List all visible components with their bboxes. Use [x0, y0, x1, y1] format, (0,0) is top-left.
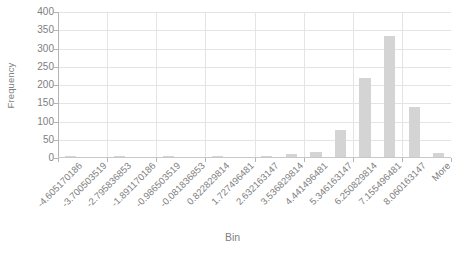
bar: [384, 36, 395, 157]
x-axis-title: Bin: [0, 231, 465, 243]
x-axis-tick-labels: -4.605170186-3.700503519-2.795836853-1.8…: [58, 160, 451, 230]
y-tick-label: 50: [18, 135, 54, 145]
plot-area: [58, 12, 451, 158]
y-axis-title-text: Frequency: [6, 62, 17, 108]
bar: [335, 130, 346, 157]
y-axis-tick-labels: 400350300250200150100500: [18, 12, 54, 158]
bars-layer: [58, 12, 451, 158]
y-tick-mark: [54, 30, 58, 31]
y-tick-mark: [54, 103, 58, 104]
y-tick-mark: [54, 85, 58, 86]
y-tick-label: 350: [18, 25, 54, 35]
y-tick-mark: [54, 67, 58, 68]
bar: [359, 78, 370, 157]
y-tick-mark: [54, 122, 58, 123]
y-tick-label: 100: [18, 117, 54, 127]
y-tick-label: 250: [18, 62, 54, 72]
y-tick-label: 200: [18, 80, 54, 90]
y-tick-mark: [54, 140, 58, 141]
histogram-chart: Frequency 400350300250200150100500 -4.60…: [0, 0, 465, 258]
y-tick-label: 0: [18, 153, 54, 163]
y-tick-label: 400: [18, 7, 54, 17]
bar: [409, 107, 420, 157]
y-tick-label: 300: [18, 44, 54, 54]
y-tick-mark: [54, 49, 58, 50]
y-tick-label: 150: [18, 98, 54, 108]
y-tick-mark: [54, 12, 58, 13]
y-axis-line: [58, 12, 59, 158]
x-tick-mark: [451, 158, 452, 162]
